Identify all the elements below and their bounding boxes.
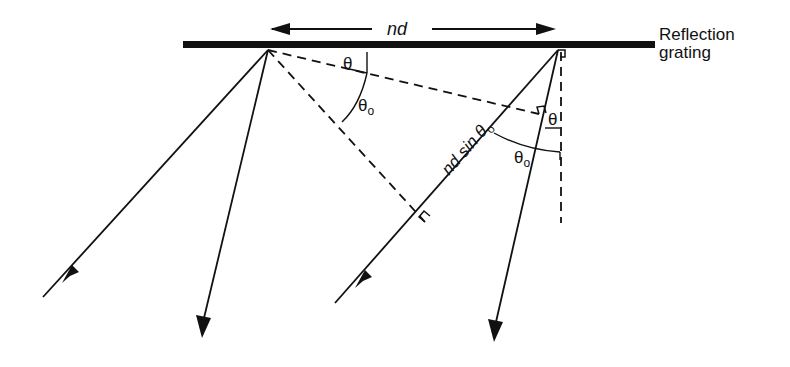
diffracted-ray-left <box>196 50 268 338</box>
grating-label-line2: grating <box>659 43 711 62</box>
incident-ray-right <box>335 50 558 303</box>
incident-ray-left <box>43 50 268 297</box>
dashed-diffracted-wavefront <box>268 50 539 114</box>
theta0-right-arc <box>494 133 560 152</box>
arrowhead-down-icon <box>196 315 211 338</box>
diffracted-ray-right <box>488 50 558 342</box>
arrowhead-up-icon <box>355 270 372 288</box>
grating-label-line1: Reflection <box>659 25 735 44</box>
theta-right-label: θ <box>548 110 557 129</box>
arrowhead-right-icon <box>536 23 556 35</box>
spacing-arrow: nd <box>270 19 556 39</box>
path-difference-label: nd sin θo <box>438 116 498 180</box>
grating-surface <box>183 41 655 48</box>
diffraction-diagram: nd Reflection grating <box>0 0 790 367</box>
theta0-right-label: θo <box>514 148 530 170</box>
svg-text:nd sin θo: nd sin θo <box>438 116 498 180</box>
theta0-left-label: θo <box>358 96 374 118</box>
right-angle-marker-mid <box>537 106 546 114</box>
arrowhead-down-icon <box>488 319 503 342</box>
spacing-label: nd <box>387 19 408 39</box>
theta-left-label: θ <box>343 54 352 73</box>
arrowhead-left-icon <box>270 23 290 35</box>
dashed-incident-wavefront <box>268 50 425 222</box>
